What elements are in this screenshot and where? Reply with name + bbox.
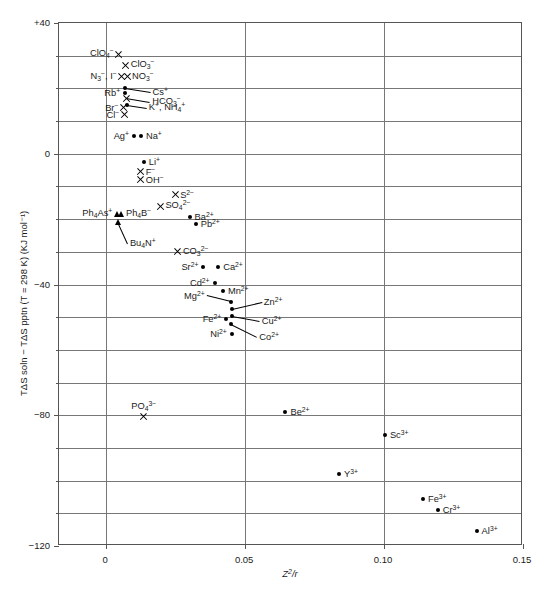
scatter-figure: ClO4−ClO3−NO3−N3−, I−Cs+Rb+HCO3−Br−K+, N… (0, 0, 542, 591)
y-axis-tick (54, 415, 59, 416)
point-label-Zn2+: Zn2+ (264, 297, 283, 307)
y-axis-tick (54, 285, 59, 286)
y-axis-minor-tick (56, 56, 59, 57)
y-axis-minor-tick (56, 121, 59, 122)
gridline-horizontal (59, 154, 521, 155)
point-label-SO42-: SO42− (165, 200, 190, 212)
x-axis-tick (523, 544, 524, 549)
x-axis-tick-label: 0 (103, 554, 108, 565)
gridline-horizontal (59, 252, 521, 253)
point-label-Ni2+: Ni2+ (210, 328, 227, 338)
y-axis-minor-tick (56, 186, 59, 187)
data-point-Be2+ (283, 410, 287, 414)
point-label-ClO4-: ClO4− (90, 48, 114, 60)
y-axis-minor-tick (56, 448, 59, 449)
y-axis-tick-label: +40 (0, 17, 50, 28)
point-label-Sr2+: Sr2+ (181, 261, 198, 271)
point-label-Mn2+: Mn2+ (228, 286, 249, 296)
x-axis-title: Z2/r (58, 568, 522, 579)
data-point-Fe3+ (421, 497, 425, 501)
point-label-Ph4As+: Ph4As+ (82, 208, 112, 220)
point-label-Al3+: Al3+ (482, 526, 498, 536)
label-leader-line (127, 105, 147, 109)
x-axis-tick-label: 0.05 (235, 554, 254, 565)
point-label-Na+: Na+ (146, 131, 162, 141)
y-axis-minor-tick (56, 252, 59, 253)
gridline-vertical (384, 23, 385, 544)
data-point-Cr3+ (436, 508, 440, 512)
data-point-Na+ (139, 134, 143, 138)
y-axis-tick (54, 154, 59, 155)
point-label-Fe3+: Fe3+ (428, 493, 447, 503)
y-axis-tick (54, 546, 59, 547)
y-axis-title: TΔS soln − TΔS pptn (T = 298 K) (KJ mol⁻… (18, 210, 29, 395)
data-point-Al3+ (475, 529, 479, 533)
y-axis-tick-label: −120 (0, 540, 50, 551)
y-axis-minor-tick (56, 88, 59, 89)
y-axis-tick-label: −80 (0, 409, 50, 420)
point-label-Rb+: Rb+ (104, 88, 120, 98)
gridline-horizontal (59, 56, 521, 57)
plot-area: ClO4−ClO3−NO3−N3−, I−Cs+Rb+HCO3−Br−K+, N… (58, 22, 522, 545)
point-label-OH-: OH− (146, 175, 164, 185)
data-point-Ni2+ (230, 332, 234, 336)
data-point-Cd2+ (213, 281, 217, 285)
y-axis-minor-tick (56, 219, 59, 220)
y-axis-tick-label: −40 (0, 278, 50, 289)
x-axis-tick (384, 544, 385, 549)
point-label-Cr3+: Cr3+ (443, 505, 461, 515)
gridline-horizontal (59, 317, 521, 318)
point-label-Ag+: Ag+ (114, 131, 129, 141)
y-axis-minor-tick (56, 513, 59, 514)
point-label-Fe2+: Fe2+ (203, 314, 222, 324)
x-axis-tick-label: 0.15 (513, 554, 532, 565)
point-label-Bu4N+: Bu4N+ (130, 238, 156, 250)
data-point-Pb2+ (194, 222, 198, 226)
y-axis-minor-tick (56, 383, 59, 384)
point-label-Cu2+: Cu2+ (262, 315, 282, 325)
gridline-horizontal (59, 285, 521, 286)
data-point-Mn2+ (221, 289, 225, 293)
point-label-Be2+: Be2+ (290, 407, 309, 417)
x-axis-tick (106, 544, 107, 549)
point-label-Cl-: Cl− (107, 109, 120, 119)
gridline-horizontal (59, 186, 521, 187)
data-point-Sc3+ (383, 433, 387, 437)
label-leader-line (231, 324, 257, 338)
x-axis-tick-label: 0.10 (374, 554, 393, 565)
point-label-Cd2+: Cd2+ (190, 278, 210, 288)
gridline-vertical (106, 23, 107, 544)
point-label-Sc3+: Sc3+ (390, 430, 409, 440)
y-axis-tick-label: 0 (0, 147, 50, 158)
label-leader-line (207, 295, 231, 302)
data-point-Ag+ (132, 134, 136, 138)
point-label-Ph4B-: Ph4B− (126, 208, 151, 220)
y-axis-minor-tick (56, 481, 59, 482)
point-label-Co2+: Co2+ (259, 332, 279, 342)
data-point-Fe2+ (224, 317, 228, 321)
y-axis-minor-tick (56, 317, 59, 318)
point-label-PO43-: PO43− (131, 401, 156, 413)
point-label-Ca2+: Ca2+ (223, 261, 243, 271)
point-label-Mg2+: Mg2+ (184, 291, 205, 301)
point-label-Y3+: Y3+ (344, 469, 358, 479)
data-point-Ca2+ (216, 265, 220, 269)
data-point-Y3+ (337, 472, 341, 476)
gridline-horizontal (59, 481, 521, 482)
label-leader-line (117, 222, 128, 244)
point-label-NO3-: NO3− (132, 71, 154, 83)
gridline-horizontal (59, 121, 521, 122)
gridline-horizontal (59, 383, 521, 384)
gridline-vertical (245, 23, 246, 544)
data-point-Li+ (142, 160, 146, 164)
point-label-Pb2+: Pb2+ (201, 219, 220, 229)
point-label-CO32-: CO32− (183, 246, 208, 258)
gridline-horizontal (59, 448, 521, 449)
point-label-N3-: N3−, I− (91, 71, 117, 83)
x-axis-tick (245, 544, 246, 549)
label-leader-line (232, 302, 262, 310)
y-axis-tick (54, 23, 59, 24)
gridline-horizontal (59, 350, 521, 351)
data-point-Sr2+ (201, 265, 205, 269)
y-axis-minor-tick (56, 350, 59, 351)
